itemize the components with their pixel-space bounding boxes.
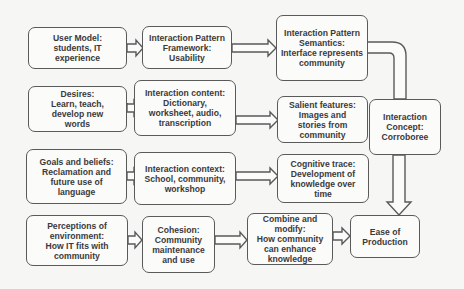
box-goals-text: Goals and beliefs: Reclamation and futur… (39, 157, 113, 197)
box-interaction-pattern-semantics: Interaction Pattern Semantics: Interface… (276, 15, 368, 81)
box-perceptions: Perceptions of environment: How IT fits … (26, 215, 128, 266)
box-semantics-text: Interaction Pattern Semantics: Interface… (281, 28, 363, 68)
arrow-content-to-salient (236, 112, 278, 128)
box-concept-text: Interaction Concept: Corroboree (382, 112, 429, 142)
box-cognitive-trace: Cognitive trace: Development of knowledg… (277, 154, 369, 203)
arrow-semantics-to-concept (367, 42, 406, 99)
box-combine-modify: Combine and modify: How community can en… (247, 213, 333, 265)
arrow-context-to-cognitive (236, 168, 278, 184)
box-goals-beliefs: Goals and beliefs: Reclamation and futur… (26, 149, 127, 204)
box-interaction-concept: Interaction Concept: Corroboree (369, 99, 441, 155)
box-desires-text: Desires: Learn, teach, develop new words (51, 89, 104, 129)
box-content-text: Interaction content: Dictionary, workshe… (145, 88, 225, 128)
box-combine-text: Combine and modify: How community can en… (257, 214, 323, 264)
box-cohesion: Cohesion: Community maintenance and use (142, 216, 215, 273)
box-perceptions-text: Perceptions of environment: How IT fits … (45, 221, 108, 261)
box-interaction-context: Interaction context: School, community, … (134, 152, 236, 205)
box-framework-text: Interaction Pattern Framework: Usability (149, 33, 225, 63)
box-desires: Desires: Learn, teach, develop new words (28, 86, 127, 132)
box-salient-text: Salient features: Images and stories fro… (289, 100, 356, 140)
box-ease-of-production: Ease of Production (350, 215, 420, 258)
box-ease-text: Ease of Production (362, 227, 407, 247)
arrow-cohesion-to-combine (215, 232, 247, 248)
arrow-combine-to-ease (333, 228, 350, 244)
box-salient-features: Salient features: Images and stories fro… (277, 96, 368, 143)
box-cognitive-text: Cognitive trace: Development of knowledg… (291, 159, 356, 199)
box-cohesion-text: Cohesion: Community maintenance and use (152, 225, 205, 265)
arrow-concept-to-ease (387, 155, 411, 215)
box-context-text: Interaction context: School, community, … (144, 164, 225, 194)
arrow-perceptions-to-cohesion (128, 232, 142, 248)
box-user-model-text: User Model: students, IT experience (53, 33, 102, 63)
box-interaction-content: Interaction content: Dictionary, workshe… (134, 80, 236, 136)
diagram-canvas: User Model: students, IT experience Inte… (0, 0, 464, 289)
box-interaction-pattern-framework: Interaction Pattern Framework: Usability (142, 26, 232, 69)
box-user-model: User Model: students, IT experience (28, 27, 127, 69)
